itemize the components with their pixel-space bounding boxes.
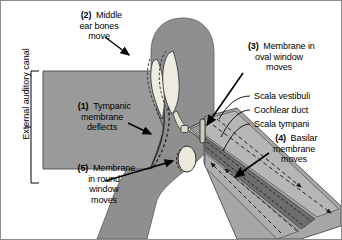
ear-transmission-diagram: External auditory canal (2)Middle ear bo… (0, 0, 342, 240)
callout-number: (2) (76, 10, 96, 21)
callout-line: Basilar (291, 133, 318, 143)
callout-line: membrane (59, 112, 145, 123)
callout-basilar-membrane: (4)Basilar membrane moves (251, 133, 337, 165)
callout-line: deflects (59, 122, 145, 133)
callout-round-window: (5)Membrane in round window moves (57, 163, 151, 205)
callout-line: membrane (251, 144, 337, 155)
callout-line: Middle (96, 10, 122, 20)
label-scala-vestibuli: Scala vestibuli (254, 91, 310, 102)
callout-line: window (57, 184, 151, 195)
callout-number: (5) (73, 163, 93, 174)
callout-line: moves (57, 195, 151, 206)
external-auditory-canal-label: External auditory canal (21, 39, 31, 149)
callout-middle-ear-bones: (2)Middle ear bones move (55, 10, 143, 42)
oval-window-membrane (200, 119, 205, 143)
callout-line: Membrane in (263, 41, 314, 51)
callout-line: ear bones (55, 21, 143, 32)
callout-line: oval window (223, 52, 335, 63)
callout-number: (1) (73, 101, 93, 112)
label-scala-tympani: Scala tympani (254, 119, 309, 130)
callout-line: in round (57, 174, 151, 185)
callout-line: move (55, 31, 143, 42)
callout-number: (4) (271, 133, 291, 144)
callout-line: moves (251, 154, 337, 165)
callout-number: (3) (243, 41, 263, 52)
callout-line: Tympanic (93, 101, 131, 111)
label-cochlear-duct: Cochlear duct (254, 105, 308, 116)
callout-oval-window: (3)Membrane in oval window moves (223, 41, 335, 73)
callout-line: moves (223, 62, 335, 73)
callout-tympanic-membrane: (1)Tympanic membrane deflects (59, 101, 145, 133)
callout-line: Membrane (93, 163, 135, 173)
